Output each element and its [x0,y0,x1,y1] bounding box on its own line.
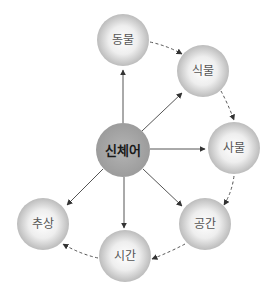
edge-animal-plant [150,42,182,54]
node-plant: 식물 [177,45,229,97]
edge-center-space [143,169,182,206]
node-label-object: 사물 [223,141,245,155]
node-label-plant: 식물 [192,64,214,78]
node-center-body-words: 신체어 [96,123,150,177]
edge-plant-object [221,91,234,120]
semantic-extension-diagram: 동물 식물 사물 공간 시간 추상 신체어 [0,0,272,298]
edge-center-plant [142,93,182,131]
node-label-space: 공간 [194,217,216,231]
node-animal: 동물 [97,14,149,66]
center-label: 신체어 [105,143,141,158]
node-abstract: 추상 [17,198,69,250]
node-time: 시간 [99,230,151,282]
node-label-time: 시간 [114,249,136,263]
node-object: 사물 [208,122,260,174]
edge-time-abstract [63,244,98,258]
node-label-abstract: 추상 [32,217,54,231]
edge-center-abstract [67,169,103,205]
node-space: 공간 [179,198,231,250]
edge-object-space [224,176,234,205]
edge-space-time [152,244,185,259]
node-label-animal: 동물 [112,33,134,47]
